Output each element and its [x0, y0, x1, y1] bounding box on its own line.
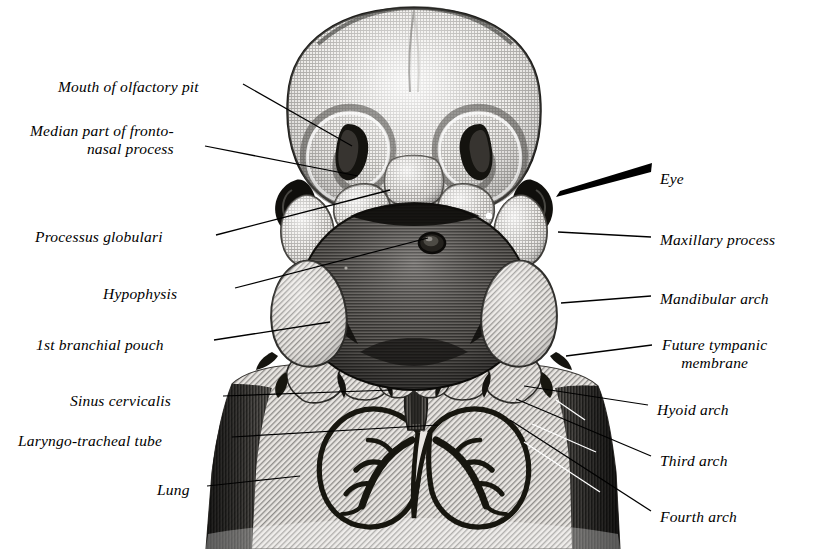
label-future-tympanic-membrane: Future tympanic membrane	[662, 336, 767, 373]
label-sinus-cervicalis: Sinus cervicalis	[70, 392, 171, 410]
label-processus-globulari: Processus globulari	[35, 228, 163, 246]
label-mandibular-arch: Mandibular arch	[660, 290, 769, 308]
label-laryngo-tracheal-tube: Laryngo-tracheal tube	[18, 432, 162, 450]
label-lung: Lung	[157, 481, 190, 499]
label-fourth-arch: Fourth arch	[660, 508, 737, 526]
label-hyoid-arch: Hyoid arch	[657, 401, 729, 419]
hypophysis-pit	[419, 233, 445, 253]
label-mouth-of-olfactory-pit: Mouth of olfactory pit	[58, 78, 199, 96]
label-third-arch: Third arch	[660, 452, 728, 470]
label-1st-branchial-pouch: 1st branchial pouch	[36, 336, 164, 354]
label-eye: Eye	[660, 170, 684, 188]
label-hypophysis: Hypophysis	[103, 285, 177, 303]
label-maxillary-process: Maxillary process	[660, 231, 775, 249]
lung-right	[429, 409, 529, 527]
label-median-part-of-fronto-nasal-process: Median part of fronto- nasal process	[30, 122, 174, 159]
cavity-highlight-dot	[486, 213, 492, 219]
